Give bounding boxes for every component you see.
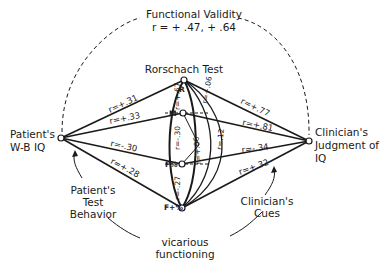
clinician-cues-line2: Cues bbox=[232, 207, 302, 219]
inter-r-fpct-label: r=+.06 bbox=[200, 75, 214, 104]
patient-iq-label-line2: W-B IQ bbox=[10, 141, 45, 153]
cue-label-fplus: F+% bbox=[164, 203, 183, 212]
inter-r-fplus-label: r=.12 bbox=[215, 128, 226, 150]
clinician-judgment-line3: IQ bbox=[315, 152, 326, 164]
clinician-judgment-line1: Clinician's bbox=[315, 126, 368, 138]
cue-label-fpct: F% bbox=[165, 160, 178, 169]
right-fpct-label: r=-.34 bbox=[241, 141, 269, 155]
right-m-label: r=+.81 bbox=[242, 117, 275, 133]
cue-node-fpct bbox=[179, 161, 185, 167]
functional-validity-title: Functional Validity bbox=[130, 8, 258, 20]
cue-label-m: M bbox=[169, 109, 176, 118]
inter-m-fplus-label: r=+.06 bbox=[192, 136, 203, 164]
rorschach-test-label: Rorschach Test bbox=[134, 63, 234, 75]
vicarious-left-line bbox=[108, 218, 140, 238]
clinician-node bbox=[306, 138, 312, 144]
right-fplus-label: r=+.32 bbox=[237, 157, 270, 177]
inter-m-fpct-label: r=-.30 bbox=[173, 126, 182, 150]
functional-validity-values: r = + .47, + .64 bbox=[130, 21, 258, 33]
lens-model-diagram: r=+.31 r=+.33 r=-.30 r=+.28 r=+.77 r=+.8… bbox=[0, 0, 388, 266]
patient-behavior-line2: Test bbox=[58, 196, 128, 208]
clinician-judgment-line2: Judgment of bbox=[315, 139, 379, 151]
cue-label-r: R bbox=[179, 85, 185, 94]
patient-iq-label-line1: Patient's bbox=[10, 128, 55, 140]
vicarious-line2: functioning bbox=[140, 248, 230, 260]
cue-node-r bbox=[181, 77, 187, 83]
patient-node bbox=[58, 135, 64, 141]
vicarious-line1: vicarious bbox=[140, 236, 230, 248]
inter-fpct-fplus-label: r=-.27 bbox=[173, 176, 182, 200]
clinician-cues-line1: Clinician's bbox=[232, 195, 302, 207]
patient-behavior-line3: Behavior bbox=[58, 208, 128, 220]
patient-behavior-line1: Patient's bbox=[58, 184, 128, 196]
